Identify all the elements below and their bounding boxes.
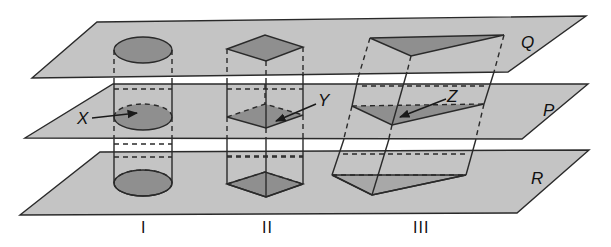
label-plane-r: R xyxy=(531,170,543,187)
planes-diagram: .plane { fill: #c4c4c4; stroke: #2a2a2a;… xyxy=(0,0,611,247)
label-section-z: Z xyxy=(447,88,457,105)
label-section-x: X xyxy=(77,110,88,127)
cross-section-x xyxy=(114,104,172,130)
plane-r xyxy=(20,150,589,215)
plane-p xyxy=(25,84,588,139)
cylinder-bottom xyxy=(114,170,172,196)
label-plane-p: P xyxy=(543,102,554,119)
label-solid-i: I xyxy=(141,220,146,236)
cylinder-top xyxy=(114,37,172,63)
label-solid-iii: III xyxy=(413,220,429,236)
label-plane-q: Q xyxy=(521,34,534,51)
label-section-y: Y xyxy=(318,92,329,109)
label-solid-ii: II xyxy=(262,220,273,236)
